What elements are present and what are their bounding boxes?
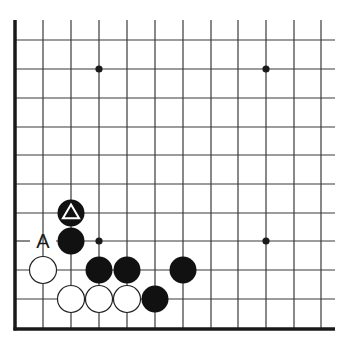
black-stone-icon	[58, 228, 85, 255]
black-stone-icon	[142, 286, 169, 313]
black-stone	[58, 200, 85, 227]
black-stone	[142, 286, 169, 313]
white-stone-icon	[30, 257, 57, 284]
star-point-icon	[95, 65, 102, 72]
star-point-icon	[262, 65, 269, 72]
white-stone	[58, 286, 85, 313]
star-point-icon	[262, 237, 269, 244]
black-stone-icon	[86, 257, 113, 284]
black-stone-icon	[114, 257, 141, 284]
white-stone	[30, 257, 57, 284]
go-board-diagram: A	[0, 0, 347, 344]
white-stone	[86, 286, 113, 313]
white-stone-icon	[58, 286, 85, 313]
white-stone	[114, 286, 141, 313]
point-labels: A	[36, 230, 50, 252]
black-stone	[170, 257, 197, 284]
white-stone-icon	[86, 286, 113, 313]
board-background	[0, 0, 347, 344]
black-stone-icon	[170, 257, 197, 284]
star-point-icon	[95, 237, 102, 244]
white-stone-icon	[114, 286, 141, 313]
black-stone	[58, 228, 85, 255]
point-label: A	[36, 230, 50, 252]
black-stone	[86, 257, 113, 284]
black-stone	[114, 257, 141, 284]
